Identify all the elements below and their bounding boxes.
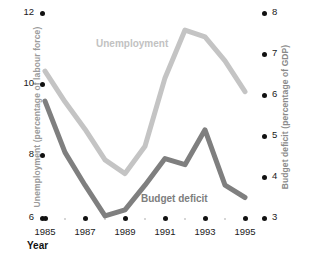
chart-container: Unemployment (percentage of labour force… (0, 0, 313, 264)
x-tick-dot-1987 (83, 216, 88, 221)
x-tick-dot-1989 (123, 216, 128, 221)
year-label-1987: 1987 (65, 226, 105, 237)
line-unemployment (45, 30, 245, 174)
right-tick-dot-5 (262, 134, 267, 139)
year-label-1993: 1993 (185, 226, 225, 237)
series-label-unemployment: Unemployment (96, 38, 168, 49)
left-tick-label-6: 6 (8, 211, 34, 222)
left-tick-label-10: 10 (8, 77, 34, 88)
left-tick-dot-8 (40, 153, 45, 158)
year-label-1991: 1991 (145, 226, 185, 237)
right-tick-dot-7 (262, 52, 267, 57)
right-tick-label-8: 8 (272, 6, 277, 17)
x-tick-dot-1991 (163, 216, 168, 221)
year-label-1995: 1995 (225, 226, 265, 237)
left-tick-dot-10 (40, 82, 45, 87)
right-tick-label-7: 7 (272, 47, 277, 58)
right-tick-dot-4 (262, 175, 267, 180)
year-label-1985: 1985 (25, 226, 65, 237)
right-tick-label-3: 3 (272, 211, 277, 222)
left-axis-title: Unemployment (percentage of labour force… (32, 17, 42, 217)
right-tick-label-4: 4 (272, 170, 277, 181)
right-tick-dot-6 (262, 93, 267, 98)
x-minor-dot-1990 (144, 218, 146, 220)
right-tick-label-6: 6 (272, 88, 277, 99)
x-tick-dot-1993 (203, 216, 208, 221)
x-tick-dot-1995 (243, 216, 248, 221)
right-axis-title: Budget deficit (percentage of GDP) (280, 17, 290, 217)
left-tick-dot-12 (40, 11, 45, 16)
right-tick-label-5: 5 (272, 129, 277, 140)
series-label-budget-deficit: Budget deficit (141, 193, 208, 204)
x-tick-dot-1985 (43, 216, 48, 221)
x-minor-dot-1992 (184, 218, 186, 220)
left-tick-label-8: 8 (8, 148, 34, 159)
left-tick-label-12: 12 (8, 6, 34, 17)
year-label-1989: 1989 (105, 226, 145, 237)
x-axis-title: Year (27, 240, 48, 251)
x-minor-dot-1994 (224, 218, 226, 220)
x-minor-dot-1988 (104, 218, 106, 220)
right-tick-dot-3 (262, 216, 267, 221)
x-minor-dot-1986 (64, 218, 66, 220)
right-tick-dot-8 (262, 11, 267, 16)
